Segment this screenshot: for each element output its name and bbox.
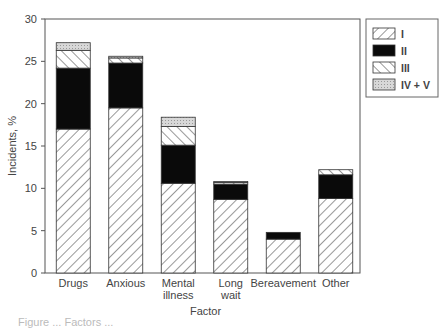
bar-segment xyxy=(214,199,248,273)
legend-swatch xyxy=(373,45,395,56)
y-tick-label: 0 xyxy=(31,267,37,279)
bar-segment xyxy=(319,198,353,273)
bar-segment xyxy=(56,129,90,273)
legend: IIIIIIIV + V xyxy=(366,19,438,97)
legend-swatch xyxy=(373,79,395,90)
figure-caption: Figure ... Factors ... xyxy=(18,316,113,328)
x-tick-label: Anxious xyxy=(106,277,146,289)
bar-drugs: Drugs xyxy=(56,43,90,289)
bar-other: Other xyxy=(319,170,353,289)
bar-segment xyxy=(161,117,195,126)
bar-long-wait: Longwait xyxy=(214,182,248,301)
bar-segment xyxy=(161,145,195,183)
bar-segment xyxy=(214,184,248,199)
bar-segment xyxy=(161,127,195,146)
bar-anxious: Anxious xyxy=(106,56,146,289)
legend-swatch xyxy=(373,28,395,39)
plot-frame xyxy=(45,19,360,273)
bars: DrugsAnxiousMentalillnessLongwaitBereave… xyxy=(56,43,353,301)
bar-segment xyxy=(56,50,90,68)
x-axis-label: Factor xyxy=(190,305,222,317)
legend-label: II xyxy=(401,45,407,57)
bar-segment xyxy=(319,170,353,175)
bar-segment xyxy=(109,58,143,63)
x-tick-label: Other xyxy=(322,277,350,289)
bar-segment xyxy=(319,175,353,199)
legend-swatch xyxy=(373,62,395,73)
bar-segment xyxy=(266,239,300,273)
stacked-bar-chart: 051015202530Incidents, %Factor DrugsAnxi… xyxy=(0,0,446,329)
bar-segment xyxy=(109,63,143,108)
bar-segment xyxy=(56,43,90,51)
y-tick-label: 5 xyxy=(31,225,37,237)
x-tick-label: Drugs xyxy=(59,277,89,289)
x-tick-label: illness xyxy=(163,289,194,301)
y-tick-label: 20 xyxy=(25,98,37,110)
y-tick-label: 10 xyxy=(25,182,37,194)
x-tick-label: Mental xyxy=(162,277,195,289)
bar-segment xyxy=(109,56,143,58)
bar-segment xyxy=(56,68,90,129)
bar-bereavement: Bereavement xyxy=(251,232,316,289)
y-tick-label: 15 xyxy=(25,140,37,152)
x-tick-label: Bereavement xyxy=(251,277,316,289)
y-tick-label: 25 xyxy=(25,55,37,67)
bar-segment xyxy=(109,108,143,273)
legend-label: I xyxy=(401,28,404,40)
legend-label: III xyxy=(401,62,410,74)
legend-label: IV + V xyxy=(401,79,430,91)
x-tick-label: Long xyxy=(219,277,243,289)
bar-segment xyxy=(266,232,300,239)
y-axis-label: Incidents, % xyxy=(6,116,18,176)
y-tick-label: 30 xyxy=(25,13,37,25)
x-tick-label: wait xyxy=(220,289,241,301)
bar-segment xyxy=(161,183,195,273)
bar-segment xyxy=(214,182,248,183)
